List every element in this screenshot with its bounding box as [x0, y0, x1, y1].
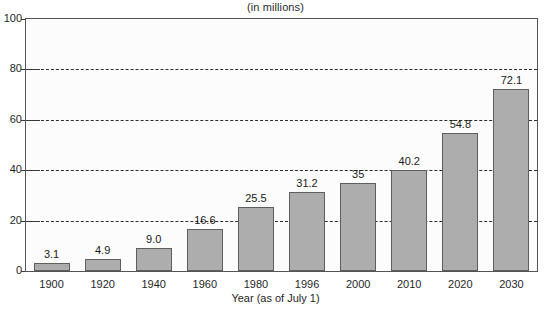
- bar-2010[interactable]: [391, 170, 427, 271]
- y-tick-40: [26, 170, 40, 171]
- y-axis-tick-mark-60: [21, 120, 25, 121]
- gridline-80: [26, 69, 537, 70]
- chart-title: (in millions): [0, 1, 551, 13]
- x-axis-label-2000: 2000: [333, 278, 384, 290]
- bar-2030[interactable]: [493, 89, 529, 271]
- bar-value-label-2020: 54.8: [435, 119, 486, 130]
- y-axis-tick-labels: 020406080100: [0, 18, 22, 272]
- y-axis-tick-mark-0: [21, 271, 25, 272]
- y-axis-label-60: 60: [0, 114, 22, 125]
- bar-1980[interactable]: [238, 207, 274, 271]
- bar-value-label-2030: 72.1: [486, 75, 537, 86]
- y-axis-label-20: 20: [0, 215, 22, 226]
- bar-value-label-1980: 25.5: [230, 193, 281, 204]
- x-axis-label-2030: 2030: [486, 278, 537, 290]
- x-axis-label-1980: 1980: [230, 278, 281, 290]
- y-tick-80: [26, 69, 40, 70]
- bar-chart: (in millions) 020406080100 3.14.99.016.6…: [0, 0, 551, 310]
- y-axis-label-80: 80: [0, 63, 22, 74]
- y-axis-tick-mark-80: [21, 69, 25, 70]
- y-tick-20: [26, 221, 40, 222]
- y-axis-label-100: 100: [0, 13, 22, 24]
- x-axis-label-1960: 1960: [179, 278, 230, 290]
- y-tick-60: [26, 120, 40, 121]
- bar-1920[interactable]: [85, 259, 121, 271]
- bar-value-label-1960: 16.6: [179, 215, 230, 226]
- bar-1996[interactable]: [289, 192, 325, 271]
- bar-value-label-2000: 35: [333, 169, 384, 180]
- bar-2000[interactable]: [340, 183, 376, 271]
- x-axis-label-1940: 1940: [128, 278, 179, 290]
- bar-1900[interactable]: [34, 263, 70, 271]
- bar-value-label-1900: 3.1: [26, 249, 77, 260]
- bar-1960[interactable]: [187, 229, 223, 271]
- bar-value-label-1940: 9.0: [128, 234, 179, 245]
- plot-area: 3.14.99.016.625.531.23540.254.872.1: [25, 18, 538, 272]
- x-axis-label-1900: 1900: [26, 278, 77, 290]
- y-axis-tick-mark-20: [21, 221, 25, 222]
- y-axis-tick-mark-100: [21, 19, 25, 20]
- bar-value-label-1920: 4.9: [77, 245, 128, 256]
- y-axis-tick-mark-40: [21, 170, 25, 171]
- bar-1940[interactable]: [136, 248, 172, 271]
- bar-2020[interactable]: [442, 133, 478, 271]
- x-axis-title: Year (as of July 1): [0, 292, 551, 304]
- bar-value-label-2010: 40.2: [384, 156, 435, 167]
- x-axis-label-2020: 2020: [435, 278, 486, 290]
- y-axis-label-0: 0: [0, 265, 22, 276]
- x-axis-label-1996: 1996: [282, 278, 333, 290]
- x-axis-label-1920: 1920: [77, 278, 128, 290]
- plot-inner: 3.14.99.016.625.531.23540.254.872.1: [26, 19, 537, 271]
- x-axis-label-2010: 2010: [384, 278, 435, 290]
- y-axis-label-40: 40: [0, 164, 22, 175]
- bar-value-label-1996: 31.2: [282, 178, 333, 189]
